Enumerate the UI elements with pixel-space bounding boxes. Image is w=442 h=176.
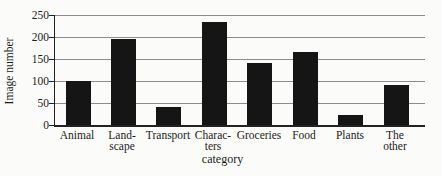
x-tick-label-line: other	[359, 141, 431, 152]
bar	[247, 63, 272, 125]
gridline	[55, 15, 425, 16]
y-tick-label: 150	[18, 53, 49, 65]
y-tick-mark	[49, 59, 54, 60]
x-tick-label: Theother	[359, 130, 431, 152]
plot-area	[54, 15, 425, 127]
y-tick-mark	[49, 37, 54, 38]
bar-chart-figure: Image number category 050100150200250Ani…	[0, 0, 442, 176]
bar	[156, 107, 181, 125]
x-tick-label-line: scape	[86, 141, 158, 152]
y-tick-mark	[49, 81, 54, 82]
y-tick-label: 250	[18, 9, 49, 21]
bar	[293, 52, 318, 125]
y-tick-mark	[49, 15, 54, 16]
bar	[384, 85, 409, 125]
x-tick-label-line: ters	[177, 141, 249, 152]
bar	[338, 115, 363, 125]
y-axis-title-text: Image number	[3, 38, 15, 105]
bar	[111, 39, 136, 125]
x-axis-title: category	[180, 152, 265, 167]
y-tick-label: 200	[18, 31, 49, 43]
y-tick-label: 50	[18, 97, 49, 109]
y-axis-title: Image number	[1, 15, 17, 127]
y-tick-mark	[49, 103, 54, 104]
y-tick-mark	[49, 125, 54, 126]
bar	[202, 22, 227, 125]
y-tick-label: 100	[18, 75, 49, 87]
gridline	[55, 37, 425, 38]
bar	[66, 81, 91, 125]
